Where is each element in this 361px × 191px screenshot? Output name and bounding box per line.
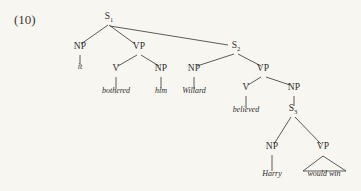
node-vp2: VP <box>257 63 270 73</box>
node-vp3: VP <box>317 141 330 151</box>
node-s1-subscript: 1 <box>110 16 113 23</box>
vp2-to-np-s3 <box>266 77 290 85</box>
node-vp1: VP <box>133 41 146 51</box>
node-v-believed: V <box>242 82 249 92</box>
node-s1: S1 <box>105 11 114 23</box>
terminal-bothered: bothered <box>102 86 130 95</box>
node-np-willard: NP <box>188 63 201 73</box>
vp1-to-v <box>118 55 137 66</box>
node-s3-subscript: 3 <box>294 108 297 115</box>
node-s2-subscript: 2 <box>237 45 240 52</box>
s3-to-np-harry <box>274 117 291 144</box>
terminal-it: it <box>78 62 82 71</box>
terminal-him: him <box>155 86 167 95</box>
edges-group <box>80 25 321 171</box>
terminal-willard: Willard <box>182 86 206 95</box>
s3-to-vp3 <box>295 117 321 144</box>
node-np-s3: NP <box>288 82 301 92</box>
syntax-tree-figure: (10) S1 NP VP S2 V NP NP VP V NP S3 NP V… <box>0 0 361 191</box>
node-s2: S2 <box>232 40 241 52</box>
terminal-believed: believed <box>233 105 260 114</box>
terminal-harry: Harry <box>262 169 282 178</box>
node-np-him: NP <box>155 63 168 73</box>
node-np-it: NP <box>74 41 87 51</box>
tree-edges-canvas <box>0 0 361 191</box>
terminal-would-win: would win <box>307 169 340 178</box>
node-s3: S3 <box>289 103 298 115</box>
vp2-to-v-believed <box>248 77 261 85</box>
s1-to-s2 <box>110 26 228 45</box>
s2-to-np-willard <box>197 54 234 66</box>
node-v-bothered: V <box>112 63 119 73</box>
node-np-harry: NP <box>266 141 279 151</box>
